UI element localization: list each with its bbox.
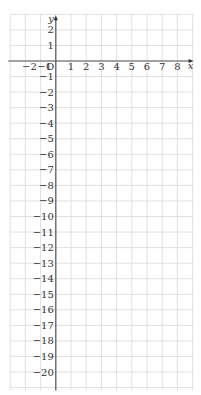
y-tick-label: −4: [39, 118, 54, 129]
x-tick-label: 4: [113, 61, 119, 72]
y-tick-label: −19: [33, 351, 54, 362]
y-tick-label: −17: [33, 320, 54, 331]
y-tick-label: −20: [33, 367, 54, 378]
y-tick-label: −6: [39, 149, 54, 160]
x-tick-label: 2: [83, 61, 89, 72]
x-tick-label: 3: [98, 61, 104, 72]
y-tick-label: −12: [33, 242, 54, 253]
y-tick-label: −7: [39, 164, 54, 175]
y-tick-label: 1: [47, 40, 53, 51]
x-tick-label: 5: [129, 61, 135, 72]
origin-label: O: [46, 61, 54, 72]
x-axis-label: x: [188, 60, 194, 71]
y-tick-label: −3: [39, 102, 54, 113]
y-tick-label: −5: [39, 133, 54, 144]
y-tick-label: −16: [33, 304, 54, 315]
y-tick-label: −10: [33, 211, 54, 222]
y-tick-label: −13: [33, 258, 54, 269]
x-tick-label: 1: [68, 61, 74, 72]
y-axis-label: y: [47, 13, 54, 24]
y-tick-label: −1: [39, 71, 54, 82]
x-tick-label: 6: [144, 61, 150, 72]
x-tick-label: −2: [22, 61, 37, 72]
y-tick-label: −15: [33, 289, 54, 300]
y-axis-arrow-icon: [54, 15, 58, 20]
y-tick-label: −2: [39, 87, 54, 98]
x-tick-label: 7: [159, 61, 165, 72]
y-tick-label: −8: [39, 180, 54, 191]
coordinate-grid: −2−11234567821−1−2−3−4−5−6−7−8−9−10−11−1…: [0, 0, 201, 395]
y-tick-label: 2: [47, 24, 53, 35]
y-tick-label: −11: [33, 227, 54, 238]
y-tick-label: −9: [39, 195, 54, 206]
x-tick-label: 8: [174, 61, 180, 72]
y-tick-label: −14: [33, 273, 54, 284]
y-tick-label: −18: [33, 335, 54, 346]
